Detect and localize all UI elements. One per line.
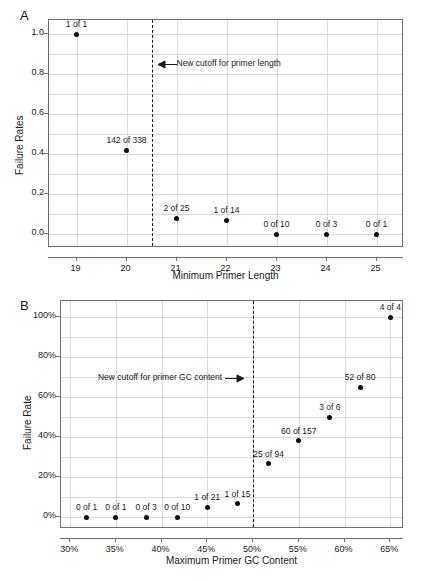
y-axis-tick-mark	[56, 316, 60, 317]
x-axis-tick-mark	[161, 538, 162, 542]
data-point-label: 1 of 14	[214, 205, 240, 215]
panel-a-plot-area: 1 of 1142 of 3382 of 251 of 140 of 100 o…	[48, 19, 403, 247]
data-point-label: 2 of 25	[164, 203, 190, 213]
cutoff-dashed-line	[253, 301, 254, 527]
data-point	[296, 438, 301, 443]
cutoff-dashed-line	[152, 20, 153, 246]
x-axis-tick-label: 25	[351, 263, 401, 273]
data-point	[74, 32, 79, 37]
y-axis-tick-label: 20%	[18, 470, 56, 480]
gridline-vertical	[127, 20, 128, 246]
gridline-vertical	[162, 301, 163, 527]
x-axis-tick-label: 21	[151, 263, 201, 273]
gridline-horizontal	[49, 174, 402, 175]
x-axis-tick-mark	[252, 538, 253, 542]
y-axis-tick-mark	[56, 436, 60, 437]
x-axis-tick-mark	[76, 257, 77, 261]
y-axis-tick-label: 1.0	[6, 27, 44, 37]
gridline-horizontal	[61, 477, 402, 478]
data-point-label: 142 of 338	[106, 135, 146, 145]
gridline-horizontal	[61, 337, 402, 338]
y-axis-tick-label: 60%	[18, 390, 56, 400]
x-axis-tick-label: 23	[251, 263, 301, 273]
x-axis-tick-label: 45%	[181, 544, 231, 554]
data-point-label: 0 of 1	[366, 219, 387, 229]
y-axis-tick-mark	[56, 356, 60, 357]
y-axis-tick-label: 0.4	[6, 147, 44, 157]
gridline-horizontal	[49, 54, 402, 55]
x-axis-tick-mark	[276, 257, 277, 261]
gridline-horizontal	[61, 357, 402, 358]
data-point-label: 0 of 10	[164, 502, 190, 512]
panel-a: A 1 of 1142 of 3382 of 251 of 140 of 100…	[0, 0, 425, 290]
panel-b-xlabel: Maximum Primer GC Content	[60, 555, 403, 566]
panel-a-letter: A	[20, 8, 29, 23]
data-point	[175, 515, 180, 520]
y-axis-tick-mark	[44, 153, 48, 154]
data-point-label: 0 of 3	[316, 219, 337, 229]
data-point	[388, 315, 393, 320]
x-axis-tick-mark	[226, 257, 227, 261]
y-axis-tick-mark	[44, 73, 48, 74]
y-axis-tick-mark	[44, 113, 48, 114]
gridline-horizontal	[61, 417, 402, 418]
data-point	[205, 505, 210, 510]
panel-b-ylabel: Failure Rate	[22, 396, 33, 450]
gridline-vertical	[70, 301, 71, 527]
arrow-right-icon	[225, 374, 249, 383]
data-point-label: 3 of 6	[319, 402, 340, 412]
y-axis-tick-label: 0.6	[6, 107, 44, 117]
x-axis-tick-label: 19	[51, 263, 101, 273]
x-axis-tick-label: 20	[101, 263, 151, 273]
x-axis-line	[60, 538, 403, 539]
gridline-vertical	[345, 301, 346, 527]
data-point	[124, 148, 129, 153]
gridline-vertical	[116, 301, 117, 527]
gridline-horizontal	[49, 234, 402, 235]
data-point	[144, 515, 149, 520]
x-axis-tick-mark	[69, 538, 70, 542]
x-axis-tick-mark	[344, 538, 345, 542]
data-point-label: 1 of 1	[66, 19, 87, 29]
data-point-label: 4 of 4	[380, 302, 401, 312]
data-point	[358, 385, 363, 390]
gridline-vertical	[277, 20, 278, 246]
data-point	[266, 461, 271, 466]
arrow-left-icon	[153, 60, 177, 69]
x-axis-tick-mark	[376, 257, 377, 261]
x-axis-tick-label: 50%	[227, 544, 277, 554]
x-axis-tick-mark	[389, 538, 390, 542]
x-axis-tick-mark	[298, 538, 299, 542]
data-point	[374, 232, 379, 237]
gridline-vertical	[327, 20, 328, 246]
data-point	[84, 515, 89, 520]
panel-b: B 0 of 10 of 10 of 30 of 101 of 211 of 1…	[0, 290, 425, 581]
panel-b-plot-area: 0 of 10 of 10 of 30 of 101 of 211 of 152…	[60, 300, 403, 528]
gridline-horizontal	[61, 437, 402, 438]
data-point	[224, 218, 229, 223]
x-axis-tick-label: 30%	[44, 544, 94, 554]
x-axis-tick-mark	[206, 538, 207, 542]
gridline-horizontal	[49, 154, 402, 155]
cutoff-annotation-label: New cutoff for primer GC content	[0, 372, 222, 382]
panel-a-ylabel: Failure Rates	[14, 116, 25, 175]
data-point	[113, 515, 118, 520]
data-point-label: 0 of 1	[76, 502, 97, 512]
data-point-label: 25 of 94	[253, 449, 284, 459]
y-axis-tick-mark	[56, 516, 60, 517]
gridline-horizontal	[49, 114, 402, 115]
x-axis-tick-label: 55%	[273, 544, 323, 554]
x-axis-tick-mark	[176, 257, 177, 261]
figure-container: A 1 of 1142 of 3382 of 251 of 140 of 100…	[0, 0, 425, 581]
y-axis-tick-label: 0.2	[6, 187, 44, 197]
data-point-label: 52 of 80	[345, 372, 376, 382]
y-axis-tick-label: 0.0	[6, 227, 44, 237]
y-axis-tick-label: 40%	[18, 430, 56, 440]
gridline-horizontal	[61, 457, 402, 458]
data-point	[324, 232, 329, 237]
data-point-label: 1 of 21	[194, 492, 220, 502]
gridline-vertical	[390, 301, 391, 527]
data-point	[174, 216, 179, 221]
gridline-horizontal	[61, 517, 402, 518]
data-point	[327, 415, 332, 420]
